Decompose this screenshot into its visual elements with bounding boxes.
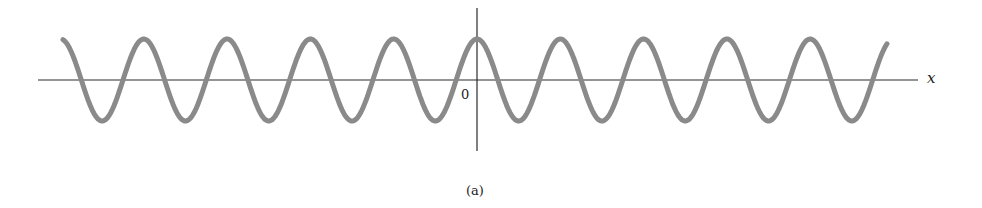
x-axis-label: x xyxy=(927,71,935,86)
figure-caption: (a) xyxy=(466,184,484,197)
origin-label: 0 xyxy=(461,88,469,101)
cosine-wave-figure: x 0 (a) xyxy=(0,0,982,208)
plot-area xyxy=(0,0,982,208)
